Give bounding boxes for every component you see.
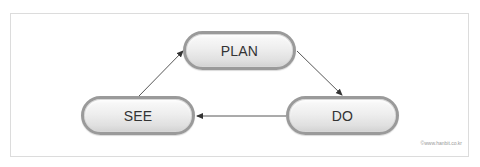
node-see-label: SEE	[124, 108, 153, 124]
node-plan-label: PLAN	[221, 43, 258, 59]
arrow-see-to-plan	[139, 51, 183, 96]
arrow-plan-to-do	[297, 51, 342, 95]
node-see: SEE	[81, 96, 195, 135]
copyright-text: ©www.hanbit.co.kr	[400, 140, 462, 146]
node-plan: PLAN	[183, 31, 296, 70]
node-do: DO	[286, 96, 399, 135]
node-do-label: DO	[332, 108, 353, 124]
